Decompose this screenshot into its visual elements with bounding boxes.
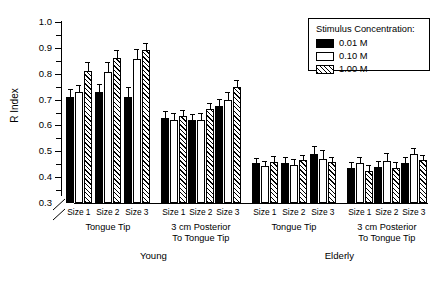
error-bar: [146, 43, 147, 51]
error-bar-cap: [207, 103, 212, 104]
error-bar-cap: [234, 80, 239, 81]
bar: [310, 154, 318, 203]
x-site-group-label: 3 cm PosteriorTo Tongue Tip: [153, 222, 249, 244]
error-bar-cap: [329, 157, 334, 158]
x-site-group-line: To Tongue Tip: [153, 233, 249, 244]
x-site-group-line: 3 cm Posterior: [339, 222, 435, 233]
y-axis-tick-labels: 1.00.90.80.70.60.50.40.3: [22, 0, 52, 294]
error-bar-cap: [300, 155, 305, 156]
error-bar-cap: [225, 92, 230, 93]
bar: [124, 97, 132, 203]
x-site-group-line: 3 cm Posterior: [153, 222, 249, 233]
bar: [66, 97, 74, 203]
y-axis-title: R Index: [9, 76, 20, 136]
error-bar-cap: [76, 85, 81, 86]
error-bar-cap: [171, 113, 176, 114]
x-site-group-line: To Tongue Tip: [339, 233, 435, 244]
y-tick-label: 1.0: [26, 17, 52, 27]
error-bar-cap: [411, 148, 416, 149]
error-bar-cap: [420, 155, 425, 156]
bar: [142, 50, 150, 203]
legend-label-001m: 0.01 M: [339, 38, 367, 48]
bar: [328, 162, 336, 203]
bar: [290, 165, 298, 203]
bar: [197, 120, 205, 203]
y-tick-label: 0.3: [26, 198, 52, 208]
error-bar-cap: [105, 62, 110, 63]
error-bar-cap: [217, 99, 222, 100]
error-bar-cap: [403, 157, 408, 158]
error-bar: [99, 84, 100, 93]
bar: [95, 92, 103, 203]
bar: [383, 161, 391, 203]
x-site-group-label: Tongue Tip: [60, 222, 156, 233]
error-bar-cap: [283, 157, 288, 158]
bar: [113, 58, 121, 203]
error-bar-cap: [254, 158, 259, 159]
legend: Stimulus Concentration: 0.01 M 0.10 M 1.…: [308, 18, 430, 71]
x-size-label: Size 3: [120, 208, 154, 217]
error-bar: [228, 92, 229, 100]
bar: [104, 72, 112, 203]
bar: [170, 120, 178, 203]
legend-label-100m: 1.00 M: [339, 64, 367, 74]
bar: [401, 163, 409, 203]
bar: [252, 163, 260, 203]
bar: [161, 118, 169, 203]
error-bar-cap: [384, 153, 389, 154]
error-bar-cap: [68, 89, 73, 90]
legend-item-0: 0.01 M: [316, 37, 429, 49]
bar: [356, 163, 364, 203]
error-bar-cap: [163, 111, 168, 112]
error-bar: [314, 146, 315, 154]
x-site-group-line: Tongue Tip: [60, 222, 156, 233]
bar: [224, 100, 232, 203]
y-tick-label: 0.5: [26, 146, 52, 156]
legend-swatch-100m: [316, 65, 334, 74]
x-site-group-line: Tongue Tip: [246, 222, 342, 233]
error-bar: [219, 99, 220, 106]
error-bar-cap: [312, 146, 317, 147]
x-size-label: Size 3: [397, 208, 431, 217]
bar: [75, 92, 83, 203]
bar: [319, 159, 327, 203]
error-bar-cap: [85, 62, 90, 63]
x-site-group-label: 3 cm PosteriorTo Tongue Tip: [339, 222, 435, 244]
x-size-label: Size 3: [211, 208, 245, 217]
error-bar-cap: [190, 114, 195, 115]
bar: [261, 166, 269, 203]
error-bar: [128, 87, 129, 97]
error-bar-cap: [349, 162, 354, 163]
error-bar-cap: [134, 49, 139, 50]
error-bar-cap: [393, 162, 398, 163]
legend-title: Stimulus Concentration:: [316, 23, 429, 35]
error-bar: [237, 80, 238, 87]
bar: [281, 163, 289, 203]
error-bar-cap: [198, 113, 203, 114]
x-age-group-label: Young: [108, 250, 198, 261]
legend-label-010m: 0.10 M: [339, 51, 367, 61]
bar: [392, 168, 400, 203]
legend-item-2: 1.00 M: [316, 63, 429, 75]
x-site-group-label: Tongue Tip: [246, 222, 342, 233]
bar: [374, 167, 382, 203]
y-tick-label: 0.7: [26, 95, 52, 105]
legend-swatch-010m: [316, 52, 334, 61]
x-axis-line: [61, 203, 428, 204]
error-bar-cap: [320, 150, 325, 151]
y-tick-label: 0.8: [26, 69, 52, 79]
error-bar: [79, 85, 80, 93]
chart-figure: R Index 1.00.90.80.70.60.50.40.3 Size 1S…: [0, 0, 446, 294]
error-bar-cap: [291, 159, 296, 160]
y-tick-label: 0.6: [26, 120, 52, 130]
bar: [133, 59, 141, 203]
error-bar: [117, 50, 118, 58]
legend-item-1: 0.10 M: [316, 50, 429, 62]
bar: [410, 154, 418, 203]
bar: [270, 162, 278, 203]
legend-swatch-001m: [316, 39, 334, 48]
error-bar: [323, 150, 324, 158]
bar: [84, 71, 92, 203]
error-bar: [137, 49, 138, 58]
error-bar-cap: [97, 84, 102, 85]
